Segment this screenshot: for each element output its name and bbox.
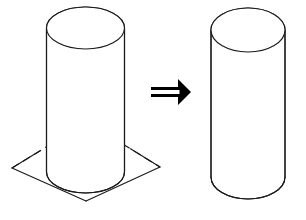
cylinder-right-top-ellipse [211, 8, 285, 52]
diagram-root: Cylinder intersecting a plane transforms… [0, 0, 306, 220]
geometry-diagram-canvas [0, 0, 306, 220]
right-figure-group [211, 8, 285, 199]
cylinder-left-top-ellipse [47, 7, 125, 49]
